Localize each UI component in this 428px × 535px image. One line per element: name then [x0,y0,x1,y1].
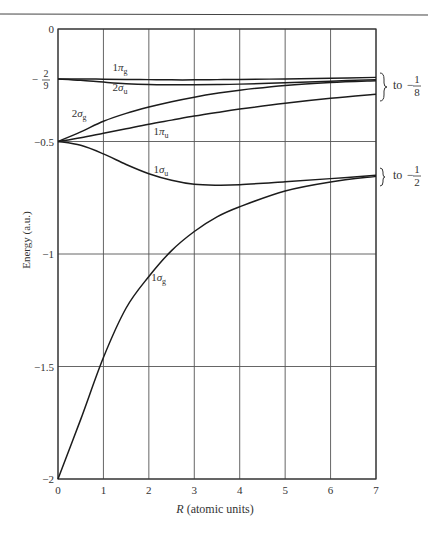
y-tick-label: −1.5 [34,361,54,373]
curve-label: 1σg [151,271,166,286]
curve-1πu [58,94,376,141]
limit-lower-text: to [393,168,402,182]
curves [58,77,376,479]
y-tick-labels: 029−−0.5−1−1.5−2 [32,23,55,485]
x-tick-label: 3 [192,484,198,496]
limit-lower-numerator: 1 [414,163,420,175]
y-tick-label: 2 [44,68,49,79]
x-tick-label: 0 [55,484,61,496]
y-tick-label: −1 [42,248,54,260]
top-rule [0,14,428,15]
x-tick-label: 5 [282,484,288,496]
y-tick-label: 0 [49,23,55,35]
y-tick-minus: − [32,73,38,85]
curve-label: 1πg [113,61,128,76]
curve-1σg [58,176,376,479]
y-tick-label: −0.5 [34,136,54,148]
curve-labels: 1πg2σu2σg1πu1σu1σg [72,61,169,286]
limit-annotation-upper: to − 1 8 [380,73,421,101]
curve-1πg [58,77,376,80]
x-tick-label: 4 [237,484,243,496]
grid-lines [58,29,376,479]
brace-icon [380,168,385,186]
x-tick-label: 6 [328,484,334,496]
x-tick-labels: 01234567 [55,484,379,496]
limit-annotation-lower: to − 1 2 [380,163,421,188]
x-tick-label: 2 [146,484,152,496]
y-tick-label: −2 [42,473,54,485]
limit-upper-text: to [393,78,402,92]
brace-icon [380,73,387,101]
curve-label: 1πu [153,125,168,140]
limit-upper-numerator: 1 [414,73,420,85]
x-axis-label: R (atomic units) [175,502,253,516]
y-axis-label: Energy (a.u.) [20,211,33,269]
x-tick-label: 1 [101,484,107,496]
limit-upper-denominator: 8 [414,86,420,98]
y-tick-label: 9 [44,80,49,91]
limit-lower-denominator: 2 [414,176,420,188]
curve-label: 2σg [72,107,87,122]
minus-sign: − [407,168,414,182]
x-tick-label: 7 [373,484,379,496]
minus-sign: − [407,78,414,92]
curve-1σu [58,142,376,186]
energy-curve-chart: 01234567 029−−0.5−1−1.5−2 1πg2σu2σg1πu1σ… [0,0,428,535]
